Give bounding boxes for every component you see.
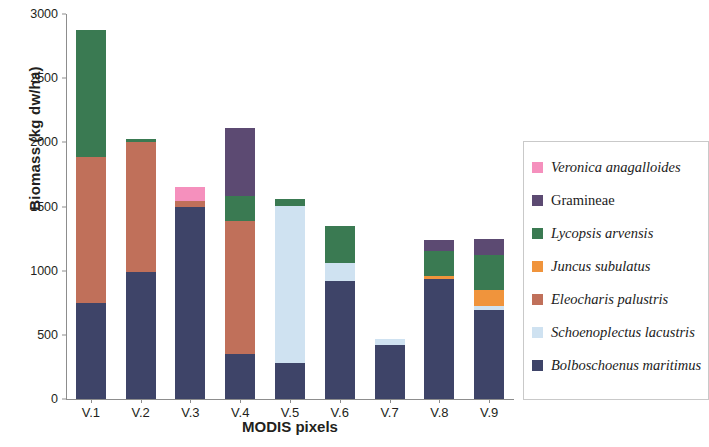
x-tick-mark bbox=[489, 399, 490, 403]
y-tick-label: 2500 bbox=[30, 71, 58, 85]
x-tick-mark bbox=[290, 399, 291, 403]
legend-label: Juncus subulatus bbox=[551, 258, 650, 275]
legend-swatch-icon bbox=[532, 294, 543, 305]
bar-segment bbox=[474, 290, 504, 306]
bar-segment bbox=[424, 251, 454, 276]
bar-segment bbox=[474, 310, 504, 399]
legend-swatch-icon bbox=[532, 162, 543, 173]
y-tick-mark bbox=[62, 78, 66, 79]
y-tick-label: 500 bbox=[37, 328, 58, 342]
legend-label: Eleocharis palustris bbox=[551, 291, 668, 308]
bar-segment bbox=[126, 142, 156, 272]
x-tick-mark bbox=[340, 399, 341, 403]
y-tick-mark bbox=[62, 270, 66, 271]
legend: Veronica anagalloidesGramineaeLycopsis a… bbox=[523, 141, 709, 400]
x-tick-mark bbox=[240, 399, 241, 403]
x-tick-mark bbox=[390, 399, 391, 403]
x-tick-mark bbox=[141, 399, 142, 403]
bar-segment bbox=[175, 187, 205, 201]
legend-item[interactable]: Lycopsis arvensis bbox=[532, 217, 702, 250]
legend-label: Veronica anagalloides bbox=[551, 159, 681, 176]
y-tick-mark bbox=[62, 14, 66, 15]
legend-item[interactable]: Gramineae bbox=[532, 184, 702, 217]
y-tick-label: 3000 bbox=[30, 7, 58, 21]
y-tick-mark bbox=[62, 142, 66, 143]
y-tick-label: 1500 bbox=[30, 200, 58, 214]
bar-v-1[interactable] bbox=[76, 30, 106, 399]
bar-segment bbox=[225, 221, 255, 354]
legend-label: Schoenoplectus lacustris bbox=[551, 324, 695, 341]
legend-swatch-icon bbox=[532, 261, 543, 272]
y-tick-mark bbox=[62, 334, 66, 335]
bar-segment bbox=[275, 199, 305, 206]
bar-v-5[interactable] bbox=[275, 199, 305, 399]
y-tick-mark bbox=[62, 206, 66, 207]
legend-swatch-icon bbox=[532, 327, 543, 338]
legend-swatch-icon bbox=[532, 228, 543, 239]
legend-item[interactable]: Juncus subulatus bbox=[532, 250, 702, 283]
bar-v-7[interactable] bbox=[375, 339, 405, 399]
bar-segment bbox=[325, 263, 355, 281]
bar-v-6[interactable] bbox=[325, 226, 355, 399]
bar-segment bbox=[225, 354, 255, 399]
bar-segment bbox=[474, 255, 504, 290]
bar-segment bbox=[76, 157, 106, 303]
legend-label: Gramineae bbox=[551, 192, 615, 209]
y-tick-label: 1000 bbox=[30, 264, 58, 278]
legend-swatch-icon bbox=[532, 195, 543, 206]
plot-area: 050010001500200025003000V.1V.2V.3V.4V.5V… bbox=[66, 14, 514, 399]
bar-segment bbox=[275, 363, 305, 399]
bar-v-8[interactable] bbox=[424, 240, 454, 399]
bar-segment bbox=[424, 240, 454, 252]
bar-segment bbox=[325, 281, 355, 399]
x-tick-mark bbox=[190, 399, 191, 403]
x-axis-title: MODIS pixels bbox=[66, 418, 514, 435]
x-tick-mark bbox=[91, 399, 92, 403]
bar-segment bbox=[76, 303, 106, 399]
legend-item[interactable]: Eleocharis palustris bbox=[532, 283, 702, 316]
bar-segment bbox=[275, 206, 305, 363]
bar-segment bbox=[325, 226, 355, 263]
y-tick-label: 0 bbox=[51, 392, 58, 406]
legend-label: Bolboschoenus maritimus bbox=[551, 357, 701, 374]
bar-segment bbox=[175, 207, 205, 400]
y-tick-label: 2000 bbox=[30, 135, 58, 149]
legend-item[interactable]: Bolboschoenus maritimus bbox=[532, 349, 702, 382]
bar-segment bbox=[424, 279, 454, 399]
legend-item[interactable]: Schoenoplectus lacustris bbox=[532, 316, 702, 349]
y-tick-mark bbox=[62, 399, 66, 400]
legend-label: Lycopsis arvensis bbox=[551, 225, 653, 242]
bar-v-4[interactable] bbox=[225, 128, 255, 399]
x-tick-mark bbox=[439, 399, 440, 403]
bar-v-3[interactable] bbox=[175, 187, 205, 399]
bar-v-9[interactable] bbox=[474, 239, 504, 399]
bar-v-2[interactable] bbox=[126, 139, 156, 399]
y-axis-line bbox=[66, 14, 67, 399]
legend-item[interactable]: Veronica anagalloides bbox=[532, 151, 702, 184]
chart-figure: Biomass (kg dw/ha) 050010001500200025003… bbox=[0, 0, 709, 447]
bar-segment bbox=[76, 30, 106, 157]
bar-segment bbox=[375, 345, 405, 399]
legend-swatch-icon bbox=[532, 360, 543, 371]
bar-segment bbox=[225, 196, 255, 220]
bar-segment bbox=[126, 272, 156, 399]
bar-segment bbox=[225, 128, 255, 196]
bar-segment bbox=[474, 239, 504, 256]
